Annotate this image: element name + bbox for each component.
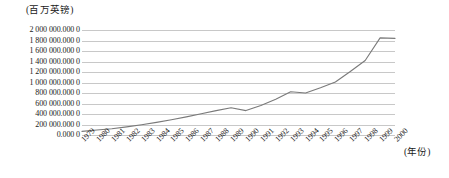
x-axis-tick-label: 1981	[110, 127, 127, 144]
x-axis-tick-label: 1983	[140, 127, 157, 144]
x-axis-tick-label: 1979	[80, 127, 97, 144]
x-axis-tick-label: 2000	[393, 127, 410, 144]
x-axis-tick-label: 1991	[259, 127, 276, 144]
x-axis-tick-label: 1993	[289, 127, 306, 144]
x-axis-tick-label: 1982	[125, 127, 142, 144]
x-axis-tick-label: 1999	[378, 127, 395, 144]
x-axis-tick-label: 1989	[229, 127, 246, 144]
x-axis-tick-label: 1992	[274, 127, 291, 144]
x-axis-title: (年份)	[404, 144, 430, 158]
line-chart: (百万英镑) 2 000 000.000 01 800 000.000 01 6…	[0, 0, 449, 178]
x-axis-tick-label: 1980	[95, 127, 112, 144]
x-axis-tick-label: 1990	[244, 127, 261, 144]
x-axis-tick-labels: 1979198019811982198319841985198619871988…	[0, 0, 449, 178]
